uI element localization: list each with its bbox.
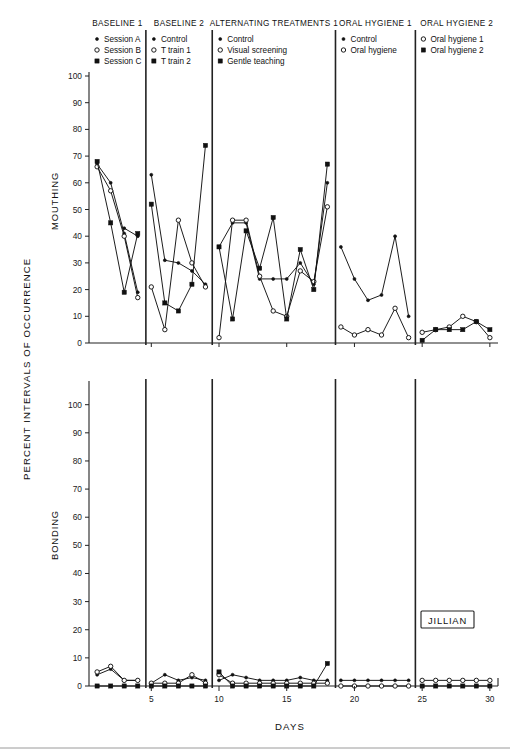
legend-marker-square (152, 59, 156, 63)
data-point-square (217, 670, 221, 674)
data-point-open (420, 330, 424, 334)
legend-marker-open (341, 48, 345, 52)
data-point-open (379, 333, 383, 337)
data-point-open (379, 684, 383, 688)
series-oral2-oral-hygiene-1 (420, 678, 492, 682)
data-point-dot (109, 181, 112, 184)
series-oral1-control (339, 235, 410, 318)
series-line (97, 666, 138, 680)
data-point-open (190, 673, 194, 677)
data-point-square (434, 684, 438, 688)
series-oral1-oral-hygiene (339, 306, 411, 340)
data-point-open (298, 269, 302, 273)
y-tick-label: 30 (73, 597, 83, 607)
y-tick-label: 10 (73, 653, 83, 663)
data-point-square (461, 684, 465, 688)
data-point-square (271, 684, 275, 688)
legend-marker-dot (342, 38, 345, 41)
data-point-open (230, 218, 234, 222)
y-tick-label: 0 (77, 338, 82, 348)
legend-label: Session C (104, 57, 141, 66)
legend-marker-open (95, 48, 99, 52)
data-point-dot (231, 673, 234, 676)
bottom-panel-axes: 0102030405060708090100 (68, 379, 498, 691)
data-point-open (488, 335, 492, 339)
data-point-square (258, 266, 262, 270)
legend-marker-square (95, 59, 99, 63)
data-point-dot (380, 293, 383, 296)
y-tick-label: 30 (73, 258, 83, 268)
legend-label: Gentle teaching (227, 57, 285, 66)
data-point-square (312, 684, 316, 688)
data-point-open (203, 285, 207, 289)
data-point-open (339, 684, 343, 688)
x-tick-label: 5 (149, 694, 154, 704)
data-point-square (230, 684, 234, 688)
data-point-dot (272, 277, 275, 280)
legend-label: Visual screening (227, 46, 287, 55)
top-panel-data (95, 143, 492, 342)
data-point-square (434, 328, 438, 332)
data-point-square (420, 338, 424, 342)
data-point-open (325, 681, 329, 685)
series-baseline2-t-train-2 (149, 684, 207, 688)
data-point-open (149, 285, 153, 289)
data-point-dot (123, 227, 126, 230)
data-point-square (447, 328, 451, 332)
series-line (422, 316, 490, 337)
data-point-open (406, 335, 410, 339)
data-point-square (285, 317, 289, 321)
data-point-open (447, 678, 451, 682)
legend-label: T train 2 (161, 57, 191, 66)
legend-label: Session A (104, 35, 141, 44)
data-point-square (325, 162, 329, 166)
data-point-dot (163, 673, 166, 676)
legend-marker-open (152, 48, 156, 52)
data-point-open (461, 314, 465, 318)
series-baseline1-session-c (95, 684, 140, 688)
series-line (341, 236, 409, 316)
data-point-square (258, 684, 262, 688)
data-point-open (108, 664, 112, 668)
data-point-square (122, 684, 126, 688)
y-tick-label: 20 (73, 625, 83, 635)
data-point-square (109, 221, 113, 225)
data-point-square (488, 328, 492, 332)
data-point-open (136, 678, 140, 682)
series-baseline1-session-b (95, 165, 140, 300)
data-point-dot (353, 277, 356, 280)
phase-title-alternating: ALTERNATING TREATMENTS 1 (210, 19, 338, 28)
data-point-square (474, 320, 478, 324)
series-line (341, 308, 409, 337)
y-tick-label: 90 (73, 428, 83, 438)
series-oral2-oral-hygiene-2 (420, 684, 492, 688)
legend-label: Oral hygiene 1 (430, 35, 484, 44)
y-tick-label: 40 (73, 231, 83, 241)
y-tick-label: 70 (73, 484, 83, 494)
y-tick-label: 50 (73, 205, 83, 215)
legend-marker-square (421, 48, 425, 52)
y-axis-title: PERCENT INTERVALS OF OCCURRENCE (21, 258, 32, 480)
data-point-dot (353, 679, 356, 682)
data-point-open (393, 684, 397, 688)
x-tick-label: 10 (214, 694, 224, 704)
data-point-square (163, 301, 167, 305)
data-point-open (474, 678, 478, 682)
data-point-open (271, 309, 275, 313)
y-tick-label: 60 (73, 512, 83, 522)
data-point-open (108, 189, 112, 193)
data-point-square (244, 229, 248, 233)
data-point-square (325, 661, 329, 665)
series-line (97, 164, 138, 292)
series-line (219, 183, 327, 284)
legend-label: Oral hygiene (350, 46, 397, 55)
legend-marker-dot (152, 38, 155, 41)
data-point-open (434, 678, 438, 682)
data-point-dot (326, 181, 329, 184)
legend-marker-open (218, 48, 222, 52)
series-alternating-gentle-teaching (217, 162, 330, 321)
data-point-square (203, 684, 207, 688)
x-tick-label: 15 (282, 694, 292, 704)
legend-marker-dot (96, 38, 99, 41)
data-point-dot (366, 679, 369, 682)
